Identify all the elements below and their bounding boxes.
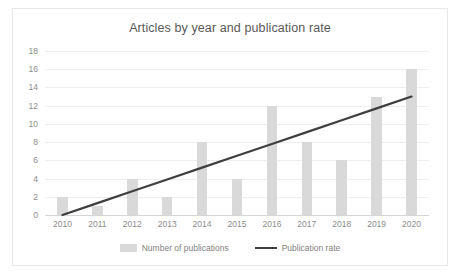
x-tick-label-2020: 2020 [402, 219, 421, 229]
plot-area [45, 51, 429, 215]
chart-container: Articles by year and publication rate 02… [12, 8, 448, 266]
x-tick-label-2011: 2011 [88, 219, 106, 229]
x-tick-label-2019: 2019 [367, 219, 386, 229]
y-tick-label-10: 10 [29, 119, 38, 129]
y-tick-label-14: 14 [29, 82, 38, 92]
y-tick-label-0: 0 [33, 210, 38, 220]
line-series-publication-rate [45, 51, 429, 215]
x-tick-label-2010: 2010 [53, 219, 72, 229]
x-tick-label-2018: 2018 [332, 219, 351, 229]
x-tick-label-2016: 2016 [262, 219, 281, 229]
y-axis-labels: 024681012141618 [13, 51, 43, 215]
legend-item-number-of-publications[interactable]: Number of publications [120, 243, 229, 253]
line-swatch-icon [255, 247, 277, 250]
gridline-0 [45, 215, 429, 216]
x-tick-label-2017: 2017 [297, 219, 316, 229]
legend-label-publication-rate: Publication rate [282, 243, 341, 253]
x-tick-label-2015: 2015 [228, 219, 247, 229]
y-tick-label-18: 18 [29, 46, 38, 56]
x-tick-label-2013: 2013 [158, 219, 177, 229]
y-tick-label-2: 2 [33, 192, 38, 202]
x-axis-labels: 2010201120122013201420152016201720182019… [45, 219, 429, 235]
y-tick-label-8: 8 [33, 137, 38, 147]
legend-label-number-of-publications: Number of publications [142, 243, 229, 253]
x-tick-label-2012: 2012 [123, 219, 142, 229]
chart-legend: Number of publications Publication rate [13, 243, 447, 253]
y-tick-label-12: 12 [29, 101, 38, 111]
bar-swatch-icon [120, 244, 137, 252]
x-tick-label-2014: 2014 [193, 219, 212, 229]
y-tick-label-4: 4 [33, 174, 38, 184]
legend-item-publication-rate[interactable]: Publication rate [255, 243, 341, 253]
chart-title: Articles by year and publication rate [13, 21, 447, 35]
y-tick-label-6: 6 [33, 155, 38, 165]
y-tick-label-16: 16 [29, 64, 38, 74]
